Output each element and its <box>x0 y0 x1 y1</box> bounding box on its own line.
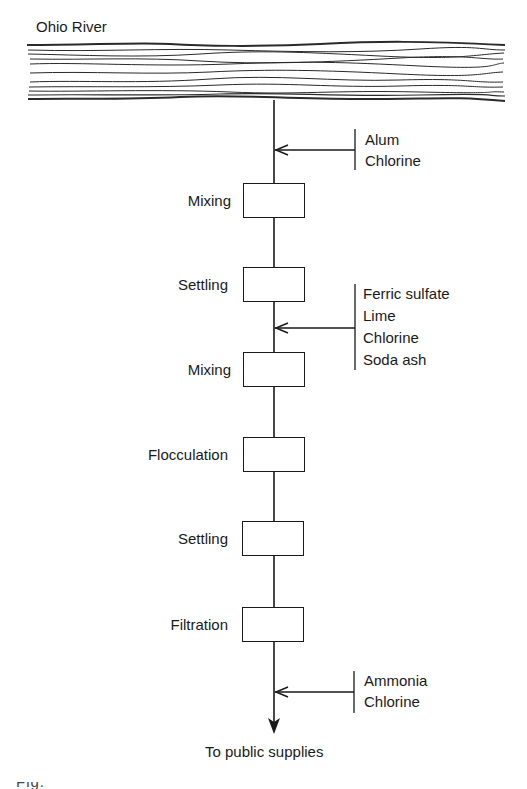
stage-box-flocculation <box>243 437 305 472</box>
chemical-input-2: Ferric sulfate Lime Chlorine Soda ash <box>363 283 450 371</box>
chemical-name: Ferric sulfate <box>363 283 450 305</box>
stage-label-mixing-1: Mixing <box>91 192 231 210</box>
output-label: To public supplies <box>205 743 323 760</box>
stage-label-settling-2: Settling <box>88 530 228 548</box>
chemical-name: Ammonia <box>364 670 427 691</box>
chemical-name: Soda ash <box>363 349 450 371</box>
chemical-name: Alum <box>365 129 421 150</box>
stage-label-flocculation: Flocculation <box>88 446 228 464</box>
stage-label-mixing-2: Mixing <box>91 361 231 379</box>
chemical-input-3: Ammonia Chlorine <box>364 670 427 712</box>
stage-label-settling-1: Settling <box>88 276 228 294</box>
stage-box-filtration <box>242 607 304 642</box>
flow-diagram-lines <box>0 0 527 789</box>
chemical-name: Chlorine <box>365 150 421 171</box>
river-icon <box>27 42 505 101</box>
figure-caption-partial: Fig. <box>16 782 511 789</box>
chemical-name: Lime <box>363 305 450 327</box>
chemical-name: Chlorine <box>363 327 450 349</box>
stage-box-mixing-1 <box>243 183 305 218</box>
stage-box-mixing-2 <box>243 352 305 387</box>
chemical-name: Chlorine <box>364 691 427 712</box>
caption-text: Fig. <box>16 782 511 789</box>
chemical-input-1: Alum Chlorine <box>365 129 421 171</box>
stage-box-settling-1 <box>243 267 305 302</box>
stage-box-settling-2 <box>242 521 304 556</box>
stage-label-filtration: Filtration <box>88 616 228 634</box>
